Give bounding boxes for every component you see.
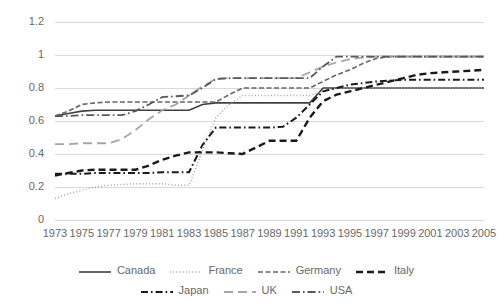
legend-row-top: Canada France Germany Italy: [0, 260, 492, 280]
series-line-japan: [55, 80, 484, 174]
x-tick-label: 1999: [389, 228, 419, 239]
x-tick-label: 1993: [308, 228, 338, 239]
x-tick-label: 2005: [469, 228, 499, 239]
y-tick-label: 0.4: [0, 148, 44, 159]
x-tick-label: 1981: [147, 228, 177, 239]
x-tick-label: 1991: [281, 228, 311, 239]
legend-item-italy[interactable]: Italy: [355, 264, 414, 276]
x-tick-label: 1987: [228, 228, 258, 239]
legend-label-usa: USA: [330, 285, 353, 296]
series-lines: [55, 57, 484, 199]
legend-swatch-canada: [78, 264, 112, 276]
legend-label-france: France: [208, 265, 242, 276]
x-tick-label: 1989: [255, 228, 285, 239]
x-tick-label: 1985: [201, 228, 231, 239]
gridlines: [55, 22, 484, 220]
legend-item-france[interactable]: France: [169, 264, 242, 276]
y-tick-label: 1.2: [0, 16, 44, 27]
legend-swatch-usa: [291, 284, 325, 296]
legend-swatch-uk: [223, 284, 257, 296]
y-tick-label: 0: [0, 214, 44, 225]
legend-item-uk[interactable]: UK: [223, 284, 277, 296]
legend-item-usa[interactable]: USA: [291, 284, 353, 296]
x-tick-label: 1979: [120, 228, 150, 239]
legend-swatch-japan: [140, 284, 174, 296]
legend-item-germany[interactable]: Germany: [257, 264, 341, 276]
legend-item-japan[interactable]: Japan: [140, 284, 209, 296]
legend-item-canada[interactable]: Canada: [78, 264, 156, 276]
series-line-canada: [55, 88, 484, 116]
series-line-italy: [55, 70, 484, 176]
legend-swatch-germany: [257, 264, 291, 276]
x-tick-label: 1975: [67, 228, 97, 239]
y-tick-label: 0.6: [0, 115, 44, 126]
legend-swatch-france: [169, 264, 203, 276]
series-line-usa: [55, 57, 484, 116]
y-tick-label: 0.8: [0, 82, 44, 93]
x-tick-label: 1997: [362, 228, 392, 239]
x-tick-label: 1973: [40, 228, 70, 239]
x-tick-label: 1977: [94, 228, 124, 239]
chart-legend: Canada France Germany Italy Japan U: [0, 258, 492, 307]
legend-row-bottom: Japan UK USA: [0, 280, 492, 300]
legend-label-canada: Canada: [117, 265, 156, 276]
y-tick-label: 1: [0, 49, 44, 60]
legend-label-uk: UK: [262, 285, 277, 296]
x-tick-label: 2003: [442, 228, 472, 239]
y-tick-label: 0.2: [0, 181, 44, 192]
series-line-germany: [55, 57, 484, 116]
legend-label-japan: Japan: [179, 285, 209, 296]
x-tick-label: 1983: [174, 228, 204, 239]
x-tick-label: 2001: [415, 228, 445, 239]
series-line-uk: [55, 57, 484, 144]
x-tick-label: 1995: [335, 228, 365, 239]
series-line-france: [55, 88, 484, 199]
legend-swatch-italy: [355, 264, 389, 276]
legend-label-germany: Germany: [296, 265, 341, 276]
legend-label-italy: Italy: [394, 265, 414, 276]
